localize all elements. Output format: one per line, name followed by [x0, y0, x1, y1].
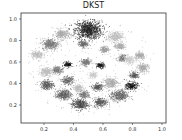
y-tick-label: 0.6 [9, 59, 17, 65]
x-tick-label: 0.6 [99, 126, 107, 132]
x-tick-label: 1.0 [158, 126, 166, 132]
x-tick-label: 0.8 [129, 126, 137, 132]
x-tick-label: 0.4 [70, 126, 78, 132]
y-tick-label: 0.2 [9, 102, 17, 108]
data-points [28, 15, 154, 115]
y-tick-label: 0.8 [9, 37, 17, 43]
y-tick-label: 0.4 [9, 80, 17, 86]
x-tick-label: 0.2 [40, 126, 48, 132]
y-tick-label: 1.0 [9, 16, 17, 22]
scatter-plot [0, 0, 182, 140]
chart-figure: DKST 0.20.40.60.81.00.20.40.60.81.0 [0, 0, 182, 140]
